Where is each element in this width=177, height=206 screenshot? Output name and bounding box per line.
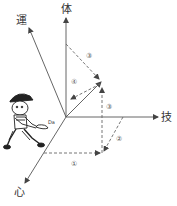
four-axis-diagram: 体 運 技 心 ① ② ③ ③ ④ Da (0, 0, 177, 206)
resultant-line (66, 82, 101, 117)
step-label-4: ④ (71, 78, 77, 86)
baseball-player-illustration: Da (4, 94, 55, 149)
axis-label-shin: 心 (14, 186, 25, 199)
step-label-1: ① (71, 160, 77, 168)
step-label-3-vertical: ③ (106, 103, 112, 111)
axis-label-un: 運 (16, 14, 27, 27)
axis-label-gi: 技 (161, 111, 172, 124)
axis-un (29, 28, 66, 117)
axis-label-tai: 体 (61, 2, 72, 16)
step2-line (104, 117, 123, 151)
step4-line (71, 84, 100, 99)
svg-text:Da: Da (48, 119, 55, 125)
step3-diagonal-line (66, 44, 99, 79)
step-label-3-diagonal: ③ (86, 52, 92, 60)
step-label-2: ② (116, 135, 122, 143)
